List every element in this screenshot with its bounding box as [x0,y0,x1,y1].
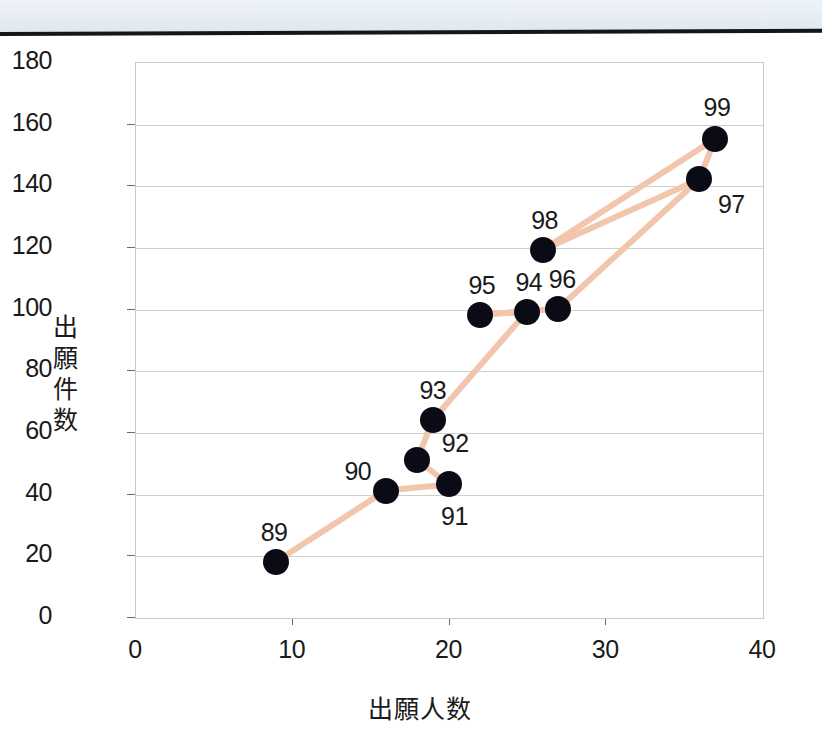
x-axis-title: 出願人数 [0,689,822,725]
y-axis-title: 出願件数 [48,312,82,436]
gridline-horizontal [136,310,763,311]
x-axis-tick-label: 0 [90,635,180,664]
y-axis-tick-mark [127,555,135,556]
data-point-label: 94 [515,267,542,296]
y-axis-tick-mark [127,247,135,248]
data-point-marker[interactable] [263,549,289,575]
gridline-horizontal [136,556,763,557]
y-axis-tick-label: 180 [0,46,52,75]
gridline-horizontal [136,248,763,249]
y-axis-tick-mark [127,617,135,618]
data-point-marker[interactable] [514,299,540,325]
y-axis-tick-mark [127,309,135,310]
y-axis-tick-mark [127,185,135,186]
data-point-label: 96 [549,264,576,293]
y-axis-tick-label: 0 [0,601,52,630]
y-axis-tick-label: 140 [0,169,52,198]
data-point-marker[interactable] [420,407,446,433]
gridline-horizontal [136,371,763,372]
data-point-marker[interactable] [702,126,728,152]
y-axis-tick-mark [127,494,135,495]
data-point-marker[interactable] [436,471,462,497]
data-point-label: 90 [344,456,371,485]
data-point-marker[interactable] [686,166,712,192]
data-point-marker[interactable] [373,478,399,504]
scatter-chart-figure: 出願件数 020406080100120140160180010203040 8… [0,36,822,740]
x-axis-tick-label: 30 [560,635,650,664]
data-point-marker[interactable] [545,296,571,322]
x-axis-title-text: 出願人数 [350,695,472,723]
data-point-label: 99 [704,93,731,122]
gridline-horizontal [136,186,763,187]
y-axis-tick-mark [127,370,135,371]
data-point-label: 89 [261,517,288,546]
x-axis-tick-label: 40 [717,635,807,664]
data-point-label: 93 [419,375,446,404]
data-point-label: 97 [718,190,745,219]
y-axis-tick-label: 160 [0,108,52,137]
chart-page: 出願件数 020406080100120140160180010203040 8… [0,0,822,740]
y-axis-tick-label: 100 [0,293,52,322]
data-point-label: 92 [442,428,469,457]
x-axis-tick-label: 20 [404,635,494,664]
y-axis-tick-mark [127,432,135,433]
y-axis-tick-mark [127,124,135,125]
data-point-label: 98 [531,206,558,235]
scanned-page-edge-band [0,0,822,33]
x-axis-tick-label: 10 [247,635,337,664]
data-point-label: 95 [468,270,495,299]
plot-area [135,62,764,619]
y-axis-tick-label: 120 [0,231,52,260]
data-point-marker[interactable] [530,237,556,263]
data-point-marker[interactable] [467,302,493,328]
gridline-horizontal [136,125,763,126]
data-point-label: 91 [441,502,468,531]
y-axis-tick-label: 20 [0,539,52,568]
y-axis-tick-label: 60 [0,416,52,445]
data-point-marker[interactable] [404,447,430,473]
y-axis-tick-label: 80 [0,354,52,383]
y-axis-tick-label: 40 [0,478,52,507]
